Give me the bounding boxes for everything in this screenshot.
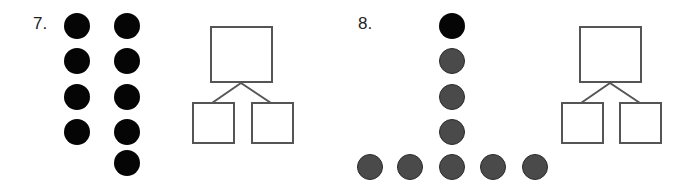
whole-box[interactable] — [579, 26, 642, 83]
part-box-right[interactable] — [619, 102, 662, 144]
part-box-left[interactable] — [561, 102, 604, 144]
